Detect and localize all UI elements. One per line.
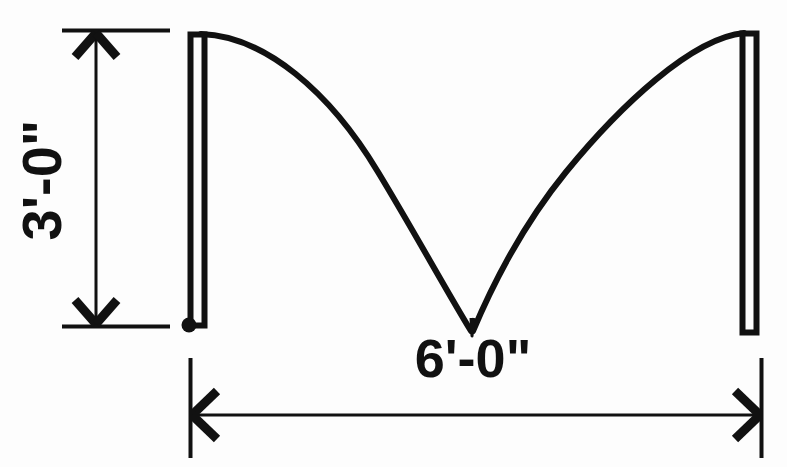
right-post-outline [743, 34, 757, 333]
drawing-svg: 3'-0" [0, 0, 787, 467]
technical-drawing-canvas: 3'-0" [0, 0, 787, 467]
right-post [743, 34, 757, 333]
horizontal-dimension-label: 6'-0" [415, 328, 532, 388]
sagging-cable [201, 33, 744, 336]
vertical-dimension-group: 3'-0" [10, 31, 170, 327]
base-anchor-point-dot [182, 318, 197, 333]
cable-right-span [473, 33, 744, 331]
vertical-dimension-label: 3'-0" [10, 120, 73, 241]
horizontal-dimension-group: 6'-0" [191, 328, 762, 458]
left-post-outline [191, 35, 205, 326]
cable-left-span [201, 34, 471, 331]
left-post [191, 35, 205, 326]
